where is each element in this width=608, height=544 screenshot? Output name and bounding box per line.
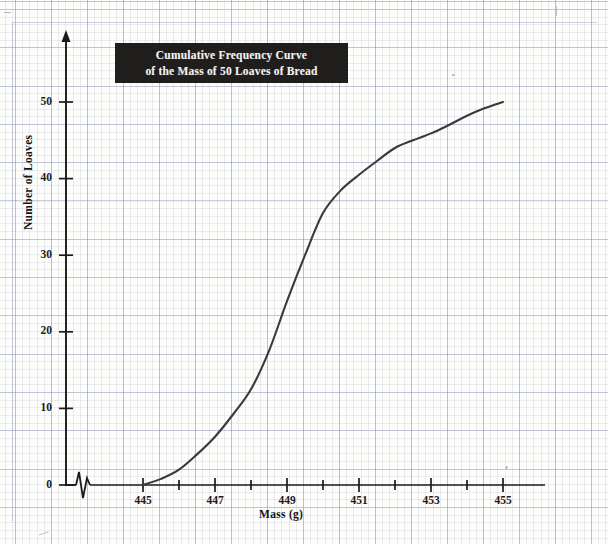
x-tick-label-445: 445 bbox=[131, 494, 155, 506]
chart-title-box: Cumulative Frequency Curve of the Mass o… bbox=[116, 44, 347, 82]
chart-title-line-1: Cumulative Frequency Curve bbox=[156, 47, 307, 63]
x-tick-label-449: 449 bbox=[275, 494, 299, 506]
y-tick-label-50: 50 bbox=[24, 95, 52, 107]
x-axis-title: Mass (g) bbox=[259, 508, 303, 520]
axis-break-symbol bbox=[76, 472, 90, 498]
y-axis bbox=[59, 30, 73, 486]
y-tick-label-30: 30 bbox=[24, 248, 52, 260]
chart-page: Cumulative Frequency Curve of the Mass o… bbox=[0, 0, 608, 544]
cumulative-frequency-curve bbox=[143, 102, 503, 485]
x-tick-label-455: 455 bbox=[491, 494, 515, 506]
y-tick-label-0: 0 bbox=[24, 478, 52, 490]
x-tick-label-451: 451 bbox=[347, 494, 371, 506]
chart-title-line-2: of the Mass of 50 Loaves of Bread bbox=[145, 63, 317, 79]
x-tick-label-447: 447 bbox=[203, 494, 227, 506]
y-tick-label-10: 10 bbox=[24, 401, 52, 413]
x-tick-label-453: 453 bbox=[419, 494, 443, 506]
y-axis-title: Number of Loaves bbox=[22, 135, 34, 230]
y-tick-label-20: 20 bbox=[24, 324, 52, 336]
